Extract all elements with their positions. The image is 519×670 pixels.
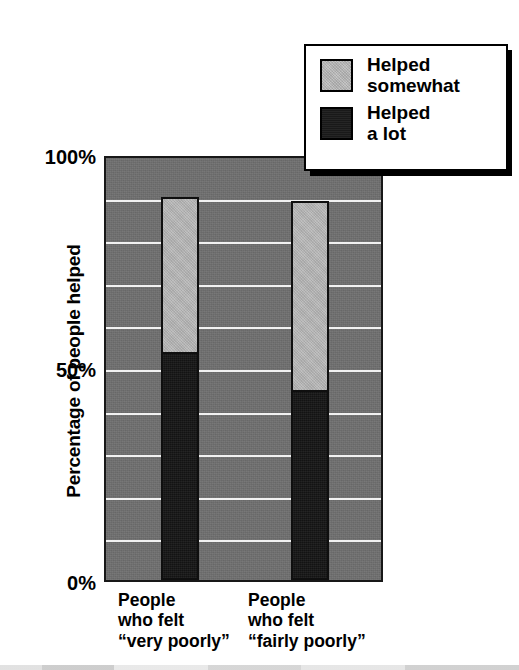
x-label-close-quote: ” — [221, 631, 230, 651]
x-label-emphasis: fairly — [257, 631, 299, 651]
x-label-line-3: “fairly poorly” — [248, 631, 408, 651]
bar-segment-helped-somewhat-0 — [163, 199, 197, 352]
legend-item-helped-a-lot: Helped a lot — [306, 103, 506, 145]
scan-edge-artifact — [0, 665, 519, 670]
gridline-70 — [106, 285, 381, 287]
bar-0 — [161, 197, 199, 580]
x-label-open-quote: “ — [118, 631, 127, 651]
y-tick-label-0: 0% — [24, 573, 96, 593]
bar-1 — [291, 201, 329, 580]
stacked-bar-chart-figure: Percentage of people helped 100% 50% 0% … — [0, 0, 519, 670]
legend-swatch-icon-helped-a-lot — [320, 107, 353, 140]
y-tick-label-50: 50% — [24, 360, 96, 380]
bar-segment-helped-a-lot-0 — [163, 352, 197, 578]
x-label-rest: poorly — [163, 631, 221, 651]
x-label-line-2: who felt — [248, 610, 408, 630]
gridline-20 — [106, 498, 381, 500]
gridline-10 — [106, 540, 381, 542]
y-tick-label-100: 100% — [24, 147, 96, 167]
gridline-40 — [106, 413, 381, 415]
x-label-open-quote: “ — [248, 631, 257, 651]
legend-swatch-icon-helped-somewhat — [320, 59, 353, 92]
x-axis-label-fairly-poorly: People who felt “fairly poorly” — [248, 590, 408, 651]
bar-segment-helped-somewhat-1 — [293, 203, 327, 390]
legend-item-helped-somewhat: Helped somewhat — [306, 55, 506, 97]
gridline-50 — [106, 370, 381, 372]
gridline-30 — [106, 455, 381, 457]
x-label-close-quote: ” — [357, 631, 366, 651]
gridline-60 — [106, 327, 381, 329]
x-label-line-1: People — [248, 590, 408, 610]
legend: Helped somewhat Helped a lot — [304, 44, 508, 171]
plot-area — [104, 156, 383, 582]
legend-label-helped-somewhat: Helped somewhat — [367, 55, 460, 97]
legend-label-helped-a-lot: Helped a lot — [367, 103, 430, 145]
gridline-80 — [106, 242, 381, 244]
x-label-rest: poorly — [299, 631, 357, 651]
x-label-emphasis: very — [127, 631, 163, 651]
plot-texture — [106, 158, 381, 580]
gridline-90 — [106, 200, 381, 202]
bar-segment-helped-a-lot-1 — [293, 390, 327, 578]
